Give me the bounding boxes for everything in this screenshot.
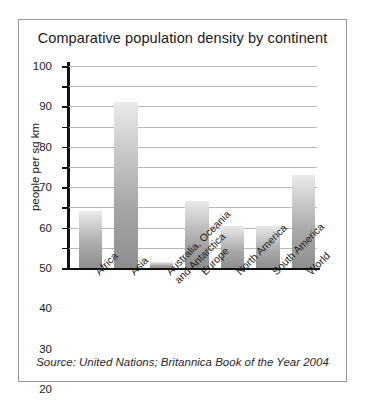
y-axis-tick-label: 80: [39, 141, 52, 153]
y-axis-tick: 0: [62, 268, 69, 270]
gridline: [69, 66, 317, 67]
y-axis-tick-label: 90: [39, 100, 52, 112]
y-axis-tick: 60: [62, 147, 69, 149]
y-axis-tick: 20: [62, 228, 69, 230]
bar: [114, 102, 137, 268]
x-axis-category-labels: AfricaAsiaAustralia, Oceania and Antarct…: [69, 270, 317, 362]
y-axis-tick-label: 30: [39, 343, 52, 355]
y-axis-tick-label: 100: [33, 60, 52, 72]
gridline: [69, 147, 317, 148]
bar: [79, 211, 102, 268]
y-axis-tick: 30: [62, 207, 69, 209]
y-axis-tick: 50: [62, 167, 69, 169]
y-axis-tick-label: 40: [39, 302, 52, 314]
chart-title: Comparative population density by contin…: [19, 30, 346, 46]
y-axis-tick: 90: [62, 86, 69, 88]
gridline: [69, 106, 317, 107]
y-axis-tick: 100: [62, 66, 69, 68]
y-axis-tick: 70: [62, 127, 69, 129]
y-axis-tick-label: 70: [39, 181, 52, 193]
gridline: [69, 167, 317, 168]
y-axis-line: [67, 62, 70, 270]
y-axis-tick: 80: [62, 106, 69, 108]
source-note: Source: United Nations; Britannica Book …: [19, 356, 346, 368]
y-axis-tick-label: 60: [39, 222, 52, 234]
y-axis-tick-label: 20: [39, 383, 52, 395]
y-axis-title: people per sq km: [28, 66, 42, 268]
y-axis-tick: 10: [62, 248, 69, 250]
y-axis-title-label: people per sq km: [29, 123, 41, 211]
y-axis-tick: 40: [62, 187, 69, 189]
gridline: [69, 187, 317, 188]
y-axis-tick-label: 50: [39, 262, 52, 274]
gridline: [69, 127, 317, 128]
gridline: [69, 86, 317, 87]
chart-figure: Comparative population density by contin…: [18, 19, 347, 382]
